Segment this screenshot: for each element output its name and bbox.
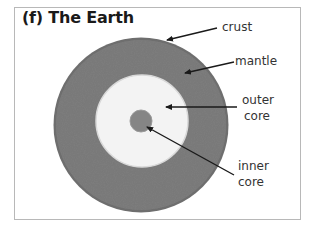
label-outer-core-line2: core <box>244 108 270 124</box>
label-outer-core-line1: outer <box>242 92 274 108</box>
label-mantle: mantle <box>235 53 277 69</box>
label-crust: crust <box>222 19 252 35</box>
crust-arrow <box>167 28 217 40</box>
label-inner-core-line1: inner <box>238 158 269 174</box>
label-inner-core-line2: core <box>238 174 264 190</box>
